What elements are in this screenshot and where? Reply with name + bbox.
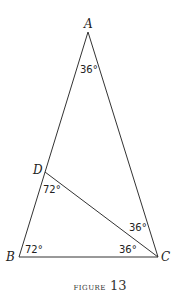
- angle-label-a: 36°: [80, 64, 98, 75]
- caption-word: figure: [73, 281, 106, 292]
- vertex-label-c: C: [161, 250, 170, 264]
- angle-label-dcb: 36°: [119, 244, 137, 255]
- angle-label-b: 72°: [25, 244, 43, 255]
- caption-number: 13: [110, 278, 127, 293]
- vertex-label-d: D: [32, 163, 43, 177]
- segment-dc: [45, 172, 158, 257]
- angle-label-bdc: 72°: [43, 184, 61, 195]
- vertex-label-b: B: [5, 250, 15, 264]
- vertex-label-a: A: [83, 17, 93, 31]
- angle-label-acd: 36°: [129, 222, 147, 233]
- figure-caption: figure13: [0, 275, 180, 294]
- segment-ac: [88, 32, 158, 257]
- segment-ab: [19, 32, 88, 257]
- triangle-diagram: A B C D 36° 72° 72° 36° 36°: [0, 0, 180, 298]
